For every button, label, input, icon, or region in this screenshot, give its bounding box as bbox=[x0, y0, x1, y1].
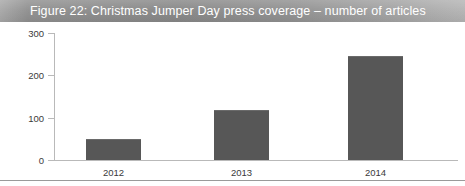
y-tick-0 bbox=[48, 160, 54, 161]
bottom-divider bbox=[0, 180, 465, 181]
bar-2012 bbox=[86, 139, 141, 160]
y-tick-100 bbox=[48, 118, 54, 119]
y-tick-label-300: 300 bbox=[4, 29, 44, 39]
y-tick-200 bbox=[48, 75, 54, 76]
figure-title: Figure 22: Christmas Jumper Day press co… bbox=[30, 2, 426, 21]
x-tick-label-2014: 2014 bbox=[345, 168, 406, 178]
bar-2014 bbox=[348, 56, 403, 160]
y-tick-300 bbox=[48, 33, 54, 34]
x-axis-line bbox=[54, 160, 458, 161]
bar-2013 bbox=[214, 110, 269, 160]
x-tick-label-2012: 2012 bbox=[83, 168, 144, 178]
y-tick-label-200: 200 bbox=[4, 71, 44, 81]
y-tick-label-100: 100 bbox=[4, 114, 44, 124]
y-tick-label-0: 0 bbox=[4, 156, 44, 166]
y-axis-line bbox=[54, 33, 55, 160]
figure-title-band: Figure 22: Christmas Jumper Day press co… bbox=[0, 0, 465, 22]
chart-plot-area: 300 200 100 0 2012 2013 2014 bbox=[0, 22, 465, 186]
figure-container: Figure 22: Christmas Jumper Day press co… bbox=[0, 0, 465, 186]
x-tick-label-2013: 2013 bbox=[211, 168, 272, 178]
